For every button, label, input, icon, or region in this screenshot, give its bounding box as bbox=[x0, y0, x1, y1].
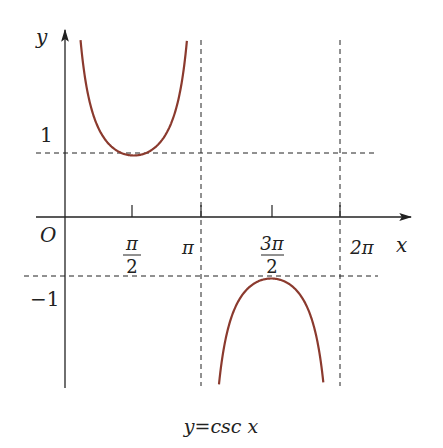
csc-curve-lower bbox=[219, 279, 323, 385]
chart-caption: y=csc x bbox=[183, 415, 259, 437]
x-tick-3pi-over-2-num: 3π bbox=[260, 233, 284, 254]
y-tick-1: 1 bbox=[40, 123, 53, 147]
x-tick-pi-over-2-num: π bbox=[125, 233, 139, 254]
y-axis-label: y bbox=[35, 25, 48, 49]
x-ticks bbox=[132, 205, 340, 217]
csc-curve-upper bbox=[81, 40, 187, 155]
x-tick-3pi-over-2-den: 2 bbox=[266, 256, 277, 277]
x-tick-pi: π bbox=[181, 237, 195, 258]
csc-chart: y x O 1 −1 π 2 π 3π 2 2π y=csc x bbox=[0, 0, 443, 448]
x-tick-2pi: 2π bbox=[349, 237, 374, 258]
x-axis-label: x bbox=[396, 233, 407, 257]
y-tick-minus-1: −1 bbox=[30, 287, 59, 311]
x-tick-pi-over-2-den: 2 bbox=[126, 256, 137, 277]
origin-label: O bbox=[40, 223, 56, 247]
